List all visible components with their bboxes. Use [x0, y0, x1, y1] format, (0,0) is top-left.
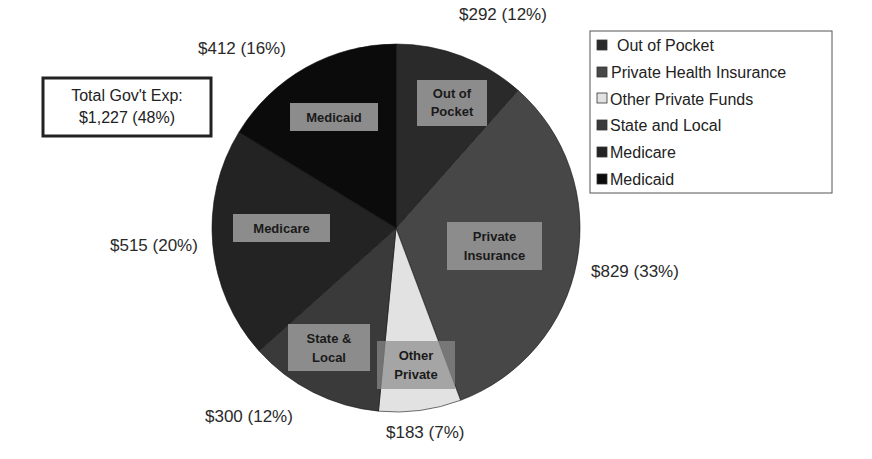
- svg-text:Private: Private: [394, 367, 437, 382]
- svg-text:Other: Other: [399, 348, 434, 363]
- svg-text:Private: Private: [473, 229, 516, 244]
- svg-text:Pocket: Pocket: [431, 104, 474, 119]
- value-label-out-of-pocket: $292 (12%): [459, 5, 547, 24]
- value-label-medicaid: $412 (16%): [198, 39, 286, 58]
- svg-text:Medicaid: Medicaid: [610, 171, 674, 188]
- pie-chart: Medicaid Out of Pocket Medicare Private …: [0, 0, 872, 459]
- slice-label-out-of-pocket: Out of Pocket: [417, 80, 487, 126]
- legend-item-state-and-local: State and Local: [597, 117, 721, 134]
- legend: Out of Pocket Private Health Insurance O…: [590, 31, 832, 193]
- legend-item-private-health-insurance: Private Health Insurance: [597, 64, 786, 81]
- svg-text:Total Gov't Exp:: Total Gov't Exp:: [71, 87, 183, 104]
- total-gov-exp-annotation: Total Gov't Exp: $1,227 (48%): [43, 78, 211, 136]
- legend-swatch-icon: [597, 40, 607, 50]
- legend-swatch-icon: [597, 174, 607, 184]
- value-label-state-local: $300 (12%): [205, 407, 293, 426]
- legend-swatch-icon: [597, 93, 607, 103]
- legend-swatch-icon: [597, 67, 607, 77]
- svg-text:State and Local: State and Local: [610, 117, 721, 134]
- svg-text:Medicaid: Medicaid: [306, 110, 362, 125]
- svg-text:Medicare: Medicare: [610, 144, 676, 161]
- svg-text:Local: Local: [312, 350, 346, 365]
- svg-text:State &: State &: [307, 331, 352, 346]
- svg-text:Out of: Out of: [433, 86, 472, 101]
- svg-text:Out of Pocket: Out of Pocket: [617, 37, 714, 54]
- legend-swatch-icon: [597, 147, 607, 157]
- slice-label-medicare: Medicare: [233, 214, 330, 242]
- value-label-medicare: $515 (20%): [110, 236, 198, 255]
- svg-text:Private Health Insurance: Private Health Insurance: [611, 64, 786, 81]
- legend-swatch-icon: [597, 120, 607, 130]
- svg-text:Medicare: Medicare: [253, 221, 309, 236]
- slice-label-private-insurance: Private Insurance: [447, 222, 542, 270]
- slice-label-medicaid: Medicaid: [290, 103, 378, 131]
- slice-label-other-private: Other Private: [377, 341, 455, 389]
- svg-text:Insurance: Insurance: [464, 248, 525, 263]
- svg-text:$1,227 (48%): $1,227 (48%): [79, 109, 175, 126]
- value-label-private-insurance: $829 (33%): [591, 262, 679, 281]
- value-label-other-private: $183 (7%): [386, 423, 464, 442]
- svg-text:Other Private Funds: Other Private Funds: [610, 91, 753, 108]
- slice-label-state-local: State & Local: [288, 324, 370, 371]
- legend-item-other-private-funds: Other Private Funds: [597, 91, 753, 108]
